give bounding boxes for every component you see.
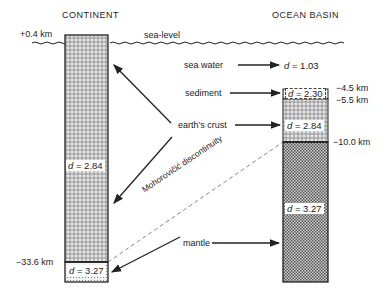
continent-title: CONTINENT — [62, 10, 119, 20]
depth-continent-moho: −33.6 km — [16, 257, 53, 267]
label-mantle: mantle — [183, 238, 210, 248]
depth-ocean-sediment-top: −4.5 km — [336, 83, 368, 93]
density-continent-crust: d = 2.84 — [66, 160, 105, 171]
sea-level-label: sea-level — [144, 30, 180, 40]
depth-continent-top: +0.4 km — [20, 29, 52, 39]
label-sea-water: sea water — [184, 60, 223, 70]
ocean-basin-title: OCEAN BASIN — [272, 10, 339, 20]
density-sea-water: d = 1.03 — [282, 60, 321, 71]
density-ocean-mantle: d = 3.27 — [285, 203, 324, 214]
density-ocean-crust: d = 2.84 — [285, 120, 324, 131]
depth-ocean-crust-top: −5.5 km — [336, 95, 368, 105]
label-sediment: sediment — [185, 88, 222, 98]
label-earths-crust: earth’s crust — [178, 120, 227, 130]
depth-ocean-moho: −10.0 km — [333, 137, 370, 147]
density-sediment: d = 2.30 — [285, 88, 326, 99]
density-continent-mantle: d = 3.27 — [67, 265, 106, 276]
